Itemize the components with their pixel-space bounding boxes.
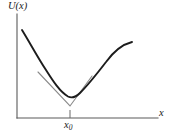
- x-zero-base: x: [64, 119, 69, 130]
- u-of-x-curve: [22, 30, 132, 97]
- potential-curve: [22, 30, 132, 97]
- figure-canvas: [0, 0, 172, 136]
- axes-group: [17, 14, 158, 118]
- x-zero-tick-label: x0: [64, 120, 72, 131]
- x-zero-subscript: 0: [69, 123, 73, 132]
- potential-energy-figure: U(x) x x0: [0, 0, 172, 136]
- x-axis-label: x: [159, 108, 164, 119]
- y-axis-label: U(x): [8, 1, 27, 12]
